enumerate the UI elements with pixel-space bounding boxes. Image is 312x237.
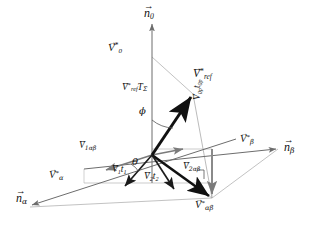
axis-label-nbeta: →nβ bbox=[284, 141, 294, 155]
plane-edge-alpha-bottom bbox=[30, 198, 212, 207]
label-vbeta-sub: β bbox=[250, 138, 254, 146]
label-v1ab-sub: 1αβ bbox=[85, 144, 97, 151]
label-v1t1-tail-sub: 1 bbox=[124, 169, 127, 175]
label-vab-sub: αβ bbox=[205, 204, 213, 212]
construction-v0-to-vref bbox=[152, 57, 193, 94]
vector-arrow-vbeta: → bbox=[240, 130, 245, 138]
construction-vref-to-vab bbox=[193, 94, 212, 198]
angle-label-theta: θ bbox=[132, 157, 138, 167]
vector-arrow-vreftsigma: → bbox=[122, 79, 127, 86]
plane-edge-beta-bottom bbox=[212, 149, 278, 198]
label-v0p-tail-sub: 0p bbox=[197, 79, 203, 85]
vector-arrow-vref: → bbox=[193, 64, 199, 73]
vector-diagram-figure: →n0 →nβ →nα →V*0 →V*ref →V*refTΣ →V0pt0p… bbox=[0, 0, 312, 237]
label-v-star-zero: →V*0 bbox=[108, 42, 122, 55]
angle-label-phi: ϕ bbox=[139, 106, 146, 116]
label-v-star-alpha: →V*α bbox=[49, 170, 64, 182]
vector-arrow-v2t2: → bbox=[144, 168, 149, 175]
label-v1-t1: →V1t1 bbox=[112, 165, 127, 175]
vector-arrow-vab: → bbox=[195, 196, 200, 204]
vector-arrow-n0: → bbox=[144, 2, 149, 11]
axis-label-nbeta-sub: β bbox=[290, 146, 294, 155]
label-v0p-t0p: →V0pt0p bbox=[193, 79, 203, 100]
vector-arrow-v0p: → bbox=[189, 95, 196, 100]
vector-arrow-v1t1: → bbox=[112, 161, 117, 168]
vector-arrow-valpha: → bbox=[49, 166, 54, 174]
axis-label-n0-sub: 0 bbox=[150, 12, 154, 21]
vector-arrow-v0: → bbox=[108, 38, 114, 47]
label-v2-t2: →V2t2 bbox=[144, 172, 159, 182]
vector-arrow-nalpha: → bbox=[16, 187, 21, 196]
label-v2-alphabeta: →V2αβ bbox=[183, 162, 200, 172]
axis-label-nalpha: →nα bbox=[16, 192, 27, 206]
label-v-star-ref-sub: ref bbox=[204, 72, 212, 81]
vector-arrow-v1ab: → bbox=[79, 137, 84, 144]
label-v2ab-sub: 2αβ bbox=[189, 165, 201, 172]
label-v-star-alphabeta: →V*αβ bbox=[195, 200, 213, 212]
axis-label-n0: →n0 bbox=[144, 7, 154, 21]
vector-arrow-nbeta: → bbox=[284, 136, 289, 145]
vector-arrow-v2ab: → bbox=[183, 158, 188, 165]
diagram-canvas bbox=[0, 0, 312, 237]
label-v-star-ref-tsigma: →V*refTΣ bbox=[122, 82, 147, 92]
label-vreftsigma-tail-sub: Σ bbox=[143, 85, 147, 92]
label-v-star-zero-sub: 0 bbox=[118, 47, 122, 55]
label-valpha-sub: α bbox=[59, 174, 64, 182]
vector-v-star-alphabeta bbox=[152, 155, 209, 196]
label-v1-alphabeta: →V1αβ bbox=[79, 141, 96, 151]
label-v0p-tail: t bbox=[192, 85, 202, 88]
vector-v-star-ref bbox=[152, 97, 191, 155]
axis-label-nalpha-sub: α bbox=[22, 197, 27, 206]
label-v2t2-tail-sub: 2 bbox=[156, 176, 159, 182]
label-v-star-beta: →V*β bbox=[240, 134, 254, 146]
